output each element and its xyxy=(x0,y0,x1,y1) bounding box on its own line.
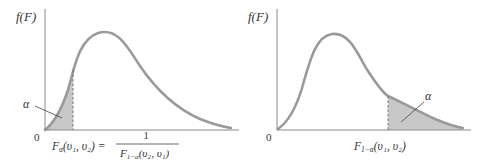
left-critical-value-formula: Fα(υ₁, υ₂) = 1 F1−α(υ₂, υ₁) xyxy=(51,130,179,161)
left-origin-label: 0 xyxy=(34,131,40,143)
right-alpha-label: α xyxy=(425,89,432,103)
right-origin-label: 0 xyxy=(266,131,272,143)
left-panel: f(F) 0 α Fα(υ₁, υ₂) = 1 F1−α(υ₂, υ₁) xyxy=(16,9,239,161)
svg-text:F1−α(υ₂, υ₁): F1−α(υ₂, υ₁) xyxy=(119,147,170,161)
right-density-curve xyxy=(278,34,463,129)
svg-text:1: 1 xyxy=(143,130,148,141)
left-y-axis-label: f(F) xyxy=(16,9,36,24)
left-tail-shaded-area xyxy=(45,70,73,130)
right-critical-value-label: F1−α(υ₁, υ₂) xyxy=(353,140,406,154)
svg-text:Fα(υ₁, υ₂) =: Fα(υ₁, υ₂) = xyxy=(51,140,106,154)
f-distribution-figure: f(F) 0 α Fα(υ₁, υ₂) = 1 F1−α(υ₂, υ₁) f(F… xyxy=(0,0,488,164)
right-panel: f(F) 0 α F1−α(υ₁, υ₂) xyxy=(248,9,471,154)
right-y-axis-label: f(F) xyxy=(248,9,268,24)
left-alpha-label: α xyxy=(23,97,30,111)
